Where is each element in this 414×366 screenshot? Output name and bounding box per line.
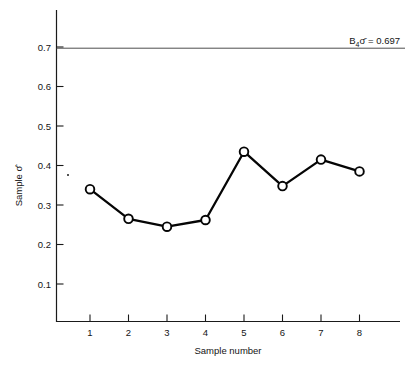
data-point-7[interactable] — [317, 155, 326, 164]
y-tick-label-0: 0.7 — [38, 42, 51, 53]
x-tick-marks — [90, 315, 360, 322]
data-point-3[interactable] — [163, 222, 172, 231]
x-tick-label-7: 7 — [318, 327, 323, 338]
y-tick-label-3: 0.4 — [38, 160, 51, 171]
x-tick-label-5: 5 — [241, 327, 246, 338]
y-tick-label-6: 0.1 — [38, 279, 51, 290]
y-tick-label-4: 0.3 — [38, 200, 51, 211]
x-tick-label-1: 1 — [87, 327, 92, 338]
data-point-2[interactable] — [124, 215, 133, 224]
y-tick-label-1: 0.6 — [38, 81, 51, 92]
data-point-4[interactable] — [201, 216, 210, 225]
control-chart: 0.7 0.6 0.5 0.4 0.3 0.2 0.1 1 2 3 4 5 6 … — [0, 0, 414, 366]
control-limit-label: B4σ̄ = 0.697 — [349, 35, 400, 48]
data-point-markers — [86, 147, 364, 231]
y-tick-label-5: 0.2 — [38, 239, 51, 250]
data-point-8[interactable] — [355, 167, 364, 176]
data-point-5[interactable] — [240, 147, 249, 156]
x-axis-title: Sample number — [194, 345, 261, 356]
control-limit-value: = 0.697 — [365, 35, 400, 46]
y-axis-title: Sample σ̂ — [13, 164, 24, 207]
data-point-1[interactable] — [86, 185, 95, 194]
x-tick-label-6: 6 — [280, 327, 285, 338]
y-tick-label-2: 0.5 — [38, 121, 51, 132]
x-tick-label-8: 8 — [357, 327, 362, 338]
x-tick-label-4: 4 — [203, 327, 208, 338]
chart-canvas: 0.7 0.6 0.5 0.4 0.3 0.2 0.1 1 2 3 4 5 6 … — [0, 0, 414, 366]
data-point-6[interactable] — [278, 182, 287, 191]
x-tick-label-2: 2 — [126, 327, 131, 338]
y-tick-marks — [57, 47, 64, 284]
x-tick-label-3: 3 — [164, 327, 169, 338]
scan-speck — [67, 174, 69, 176]
